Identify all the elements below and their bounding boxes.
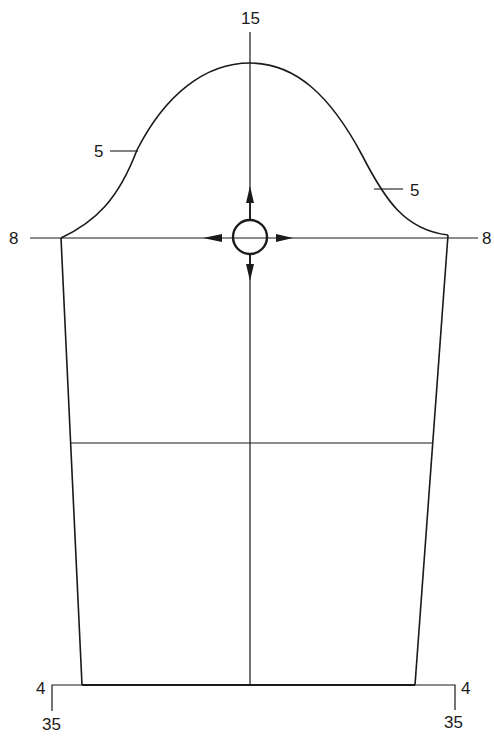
label-hem-right-inset: 4 — [461, 679, 470, 698]
sleeve-pattern-diagram: 15 5 5 8 8 4 4 35 35 — [0, 0, 494, 744]
arrow-left-icon — [203, 234, 222, 242]
right-hem-measure-tick — [415, 685, 455, 710]
arrow-right-icon — [276, 234, 293, 242]
right-underarm-seam — [415, 235, 448, 685]
label-bicep-left: 8 — [9, 229, 18, 248]
label-cap-right: 5 — [410, 181, 419, 200]
left-hem-measure-tick — [52, 685, 82, 711]
label-cap-left: 5 — [94, 142, 103, 161]
label-top: 15 — [241, 9, 260, 28]
label-length-left: 35 — [42, 715, 61, 734]
left-underarm-seam — [61, 238, 82, 685]
label-length-right: 35 — [444, 713, 463, 732]
label-hem-left-inset: 4 — [36, 679, 45, 698]
shoulder-point-marker — [203, 186, 293, 281]
label-bicep-right: 8 — [482, 229, 491, 248]
